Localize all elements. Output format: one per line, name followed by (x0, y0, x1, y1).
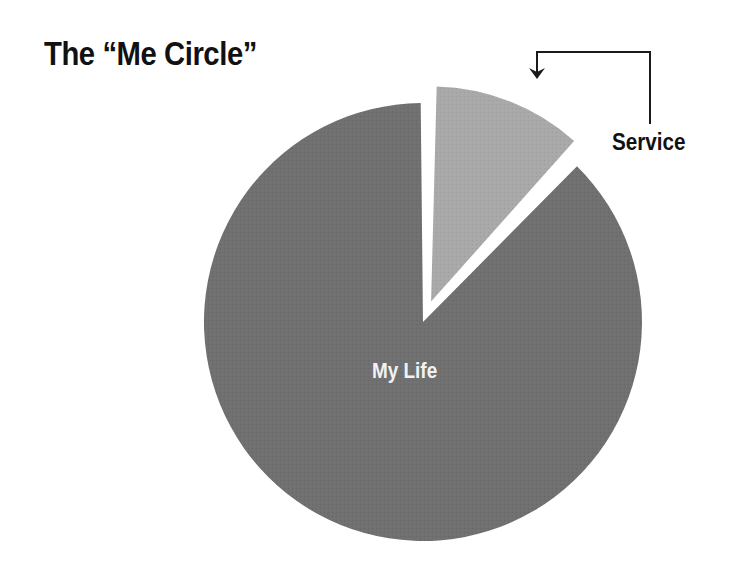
pie-slice-my-life (204, 103, 642, 541)
slice-label-service: Service (612, 128, 685, 156)
callout-arrow-icon (529, 52, 650, 124)
pie-chart (0, 0, 744, 567)
slice-label-my-life: My Life (372, 358, 437, 384)
